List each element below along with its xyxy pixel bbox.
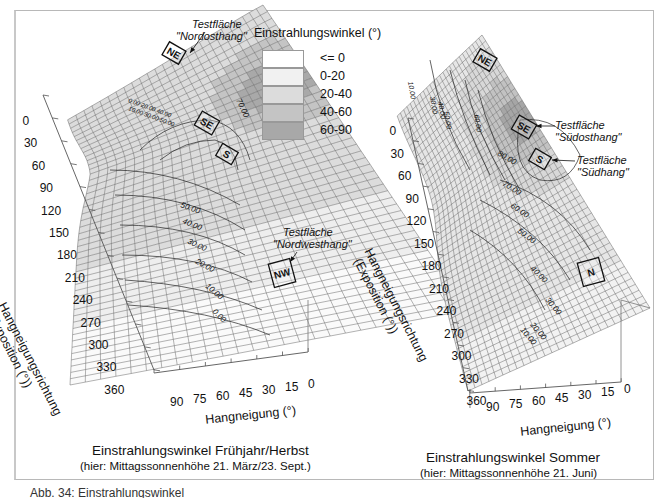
tick-label: 90	[40, 181, 53, 195]
legend-item: 60-90	[262, 122, 402, 140]
annotation-nordwesthang: Testfläche "Nordwesthang"	[273, 226, 352, 250]
annotation-suedhang: Testfläche "Südhang"	[577, 154, 629, 178]
legend-label: 20-40	[320, 87, 352, 101]
legend-item: <= 0	[262, 50, 402, 68]
tick-label: 30	[262, 383, 275, 397]
right-chart-title: Einstrahlungswinkel Sommer	[426, 450, 600, 465]
legend-swatch	[262, 50, 304, 68]
tick-label: 120	[407, 214, 427, 228]
tick-label: 0	[390, 124, 397, 138]
tick-label: 240	[73, 293, 93, 307]
tick-label: 300	[452, 349, 472, 363]
tick-label: 150	[49, 226, 69, 240]
tick-label: 60	[532, 394, 545, 408]
legend-swatch	[262, 68, 304, 86]
figure-footer: Abb. 34: Einstrahlungswinkel	[30, 486, 184, 498]
tick-label: 210	[65, 271, 85, 285]
tick-label: 330	[96, 360, 116, 374]
annotation-nordosthang: Testfläche "Nordosthang"	[176, 18, 247, 42]
tick-label: 30	[391, 147, 404, 161]
tick-label: 90	[486, 400, 499, 414]
right-chart-subtitle: (hier: Mittagssonnenhöhe 21. Juni)	[420, 467, 597, 479]
tick-label: 360	[467, 394, 487, 408]
tick-label: 0	[23, 114, 30, 128]
tick-label: 0	[624, 382, 631, 396]
tick-label: 45	[555, 391, 568, 405]
tick-label: 360	[104, 383, 124, 397]
legend-item: 20-40	[262, 86, 402, 104]
tick-label: 60	[398, 169, 411, 183]
tick-label: 60	[32, 159, 45, 173]
tick-label: 15	[285, 380, 298, 394]
legend-swatch	[262, 104, 304, 122]
tick-label: 240	[437, 304, 457, 318]
tick-label: 90	[170, 395, 183, 409]
tick-label: 210	[429, 282, 449, 296]
left-chart-title: Einstrahlungswinkel Frühjahr/Herbst	[92, 443, 309, 458]
tick-label: 60	[216, 389, 229, 403]
tick-label: 270	[81, 316, 101, 330]
legend-swatch	[262, 86, 304, 104]
legend-title: Einstrahlungswinkel (°)	[254, 26, 381, 40]
legend-item: 0-20	[262, 68, 402, 86]
tick-label: 75	[509, 397, 522, 411]
contour-label: 10.00	[407, 81, 417, 100]
tick-label: 45	[239, 386, 252, 400]
tick-label: 330	[459, 372, 479, 386]
tick-label: 75	[193, 392, 206, 406]
legend-label: <= 0	[320, 51, 345, 65]
legend-swatch	[262, 122, 304, 140]
annotation-suedosthang: Testfläche "Südosthang"	[555, 119, 622, 143]
legend-label: 0-20	[320, 69, 345, 83]
legend-item: 40-60	[262, 104, 402, 122]
tick-label: 180	[57, 248, 77, 262]
tick-label: 180	[422, 259, 442, 273]
tick-label: 120	[41, 204, 61, 218]
legend-label: 40-60	[320, 105, 352, 119]
left-chart-subtitle: (hier: Mittagssonnenhöhe 21. März/23. Se…	[80, 460, 311, 472]
tick-label: 150	[414, 237, 434, 251]
legend-label: 60-90	[320, 123, 352, 137]
tick-label: 30	[578, 388, 591, 402]
tick-label: 15	[601, 385, 614, 399]
tick-label: 0	[308, 377, 315, 391]
tick-label: 300	[89, 338, 109, 352]
tick-label: 30	[24, 136, 37, 150]
tick-label: 90	[406, 192, 419, 206]
tick-label: 270	[444, 327, 464, 341]
